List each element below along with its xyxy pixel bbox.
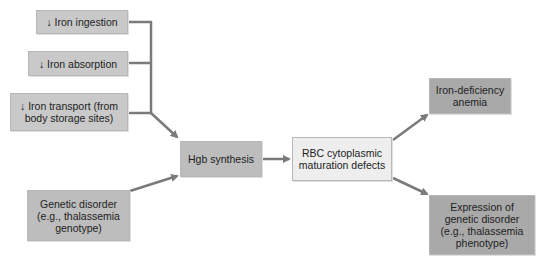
node-label-line: body storage sites) — [25, 112, 114, 124]
arrow-rbc-to-expression — [393, 178, 427, 194]
arrow-rbc-to-ida — [393, 115, 427, 140]
node-label-line: (e.g., thalassemia — [37, 210, 120, 222]
node-expression-genetic-disorder: Expression of genetic disorder (e.g., th… — [429, 195, 535, 255]
arrow-genetic-to-hgb — [130, 176, 177, 191]
arrow-to-hgb — [151, 113, 177, 137]
node-label-line: Expression of — [450, 201, 514, 213]
node-iron-ingestion: ↓ Iron ingestion — [36, 10, 128, 34]
node-label: Hgb synthesis — [188, 153, 254, 165]
node-label-line: maturation defects — [299, 159, 385, 171]
node-iron-absorption: ↓ Iron absorption — [28, 51, 128, 76]
node-label-line: ↓ Iron transport (from — [20, 100, 118, 112]
node-label: ↓ Iron ingestion — [46, 16, 117, 28]
flow-diagram: ↓ Iron ingestion ↓ Iron absorption ↓ Iro… — [0, 0, 537, 259]
node-iron-deficiency-anemia: Iron-deficiency anemia — [429, 78, 511, 114]
node-label-line: anemia — [453, 96, 487, 108]
node-genetic-disorder: Genetic disorder (e.g., thalassemia geno… — [27, 190, 130, 241]
node-label-line: RBC cytoplasmic — [302, 147, 382, 159]
node-iron-transport: ↓ Iron transport (from body storage site… — [10, 93, 128, 131]
node-label-line: Genetic disorder — [40, 198, 117, 210]
node-label-line: Iron-deficiency — [436, 84, 504, 96]
node-label-line: phenotype) — [456, 237, 509, 249]
node-label-line: genotype) — [55, 222, 102, 234]
node-label: ↓ Iron absorption — [39, 58, 117, 70]
node-rbc-maturation-defects: RBC cytoplasmic maturation defects — [292, 137, 392, 181]
node-hgb-synthesis: Hgb synthesis — [180, 141, 262, 177]
node-label-line: genetic disorder — [445, 213, 520, 225]
node-label-line: (e.g., thalassemia — [441, 225, 524, 237]
